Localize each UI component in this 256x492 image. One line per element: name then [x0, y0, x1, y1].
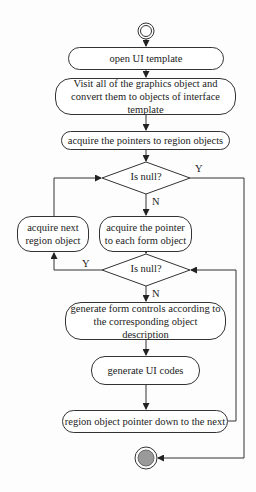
decision-1-no-label: N [152, 196, 160, 207]
node-label: acquire next region object [22, 221, 84, 247]
node-label: generate form controls according to the … [70, 302, 221, 341]
decision-2-yes-label: Y [82, 258, 90, 269]
node-generate-form-controls: generate form controls according to the … [65, 302, 226, 340]
node-label: Visit all of the graphics object and con… [62, 77, 229, 116]
start-node-icon [138, 23, 154, 39]
decision-1-label: Is null? [112, 171, 180, 182]
node-acquire-region-pointers: acquire the pointers to region objects [61, 131, 230, 150]
decision-1-yes-label: Y [195, 163, 203, 174]
node-generate-ui-codes: generate UI codes [91, 356, 200, 385]
node-label: region object pointer down to the next [65, 415, 225, 428]
decision-2-no-label: N [152, 288, 160, 299]
node-label: open UI template [110, 52, 183, 65]
flowchart-canvas: open UI template Visit all of the graphi… [0, 0, 256, 492]
node-acquire-form-pointer: acquire the pointer to each form object [99, 216, 192, 252]
node-label: generate UI codes [108, 364, 184, 377]
final-node-icon [135, 447, 157, 469]
node-label: acquire the pointer to each form object [104, 221, 187, 247]
node-acquire-next-region: acquire next region object [17, 216, 89, 252]
node-region-pointer-next: region object pointer down to the next [62, 410, 228, 433]
decision-2-label: Is null? [112, 263, 180, 274]
node-label: acquire the pointers to region objects [68, 134, 223, 147]
node-visit-graphics-objects: Visit all of the graphics object and con… [55, 78, 236, 115]
node-open-ui-template: open UI template [68, 47, 224, 70]
